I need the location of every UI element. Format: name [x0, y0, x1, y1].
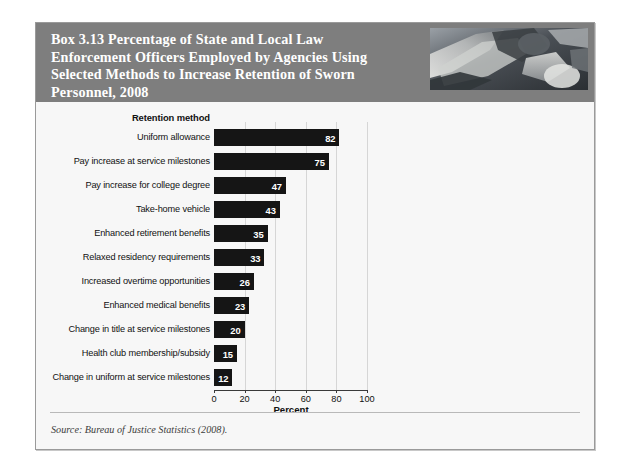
- bar-row: Enhanced medical benefits23: [36, 294, 594, 318]
- axis-tick: [306, 390, 307, 393]
- axis-tick: [245, 390, 246, 393]
- box-body: Retention method Uniform allowance82Pay …: [36, 102, 594, 449]
- bar-value-label: 47: [272, 180, 282, 191]
- page-title: Box 3.13 Percentage of State and Local L…: [51, 31, 396, 101]
- x-axis-label: Percent: [214, 404, 368, 415]
- footer-divider: [50, 412, 580, 413]
- bar-row: Increased overtime opportunities26: [36, 270, 594, 294]
- bar: 15: [214, 345, 237, 362]
- bar-value-label: 26: [240, 276, 250, 287]
- bar-category-label: Health club membership/subsidy: [36, 348, 210, 358]
- category-axis-title: Retention method: [36, 112, 210, 123]
- bar: 20: [214, 321, 245, 338]
- bar-value-label: 12: [218, 372, 228, 383]
- bar-value-label: 15: [223, 348, 233, 359]
- box-container: Box 3.13 Percentage of State and Local L…: [35, 22, 595, 450]
- bar-value-label: 33: [250, 252, 260, 263]
- axis-tick: [336, 390, 337, 393]
- police-officer-photo: [430, 28, 588, 90]
- axis-tick: [367, 390, 368, 393]
- bar: 26: [214, 273, 254, 290]
- bar: 82: [214, 129, 339, 146]
- bar: 75: [214, 153, 329, 170]
- axis-tick-label: 100: [359, 394, 374, 404]
- bar-rows: Uniform allowance82Pay increase at servi…: [36, 126, 594, 390]
- x-axis: 020406080100: [214, 390, 368, 391]
- box-header: Box 3.13 Percentage of State and Local L…: [36, 23, 594, 102]
- bar-value-label: 43: [266, 204, 276, 215]
- bar-category-label: Pay increase at service milestones: [36, 156, 210, 166]
- axis-tick-label: 40: [270, 394, 280, 404]
- bar-category-label: Enhanced retirement benefits: [36, 228, 210, 238]
- bar-value-label: 35: [253, 228, 263, 239]
- bar-row: Health club membership/subsidy15: [36, 342, 594, 366]
- bar-value-label: 23: [235, 300, 245, 311]
- bar-value-label: 75: [315, 156, 325, 167]
- bar: 47: [214, 177, 286, 194]
- bar-value-label: 82: [325, 132, 335, 143]
- axis-tick-label: 60: [301, 394, 311, 404]
- bar: 35: [214, 225, 268, 242]
- bar-category-label: Uniform allowance: [36, 132, 210, 142]
- bar-category-label: Change in title at service milestones: [36, 324, 210, 334]
- bar: 12: [214, 369, 232, 386]
- bar-row: Enhanced retirement benefits35: [36, 222, 594, 246]
- bar-category-label: Change in uniform at service milestones: [36, 372, 210, 382]
- bar: 33: [214, 249, 264, 266]
- bar-category-label: Enhanced medical benefits: [36, 300, 210, 310]
- bar-category-label: Take-home vehicle: [36, 204, 210, 214]
- axis-tick: [214, 390, 215, 393]
- bar-row: Pay increase at service milestones75: [36, 150, 594, 174]
- bar-row: Uniform allowance82: [36, 126, 594, 150]
- bar-category-label: Relaxed residency requirements: [36, 252, 210, 262]
- bar-row: Pay increase for college degree47: [36, 174, 594, 198]
- source-note: Source: Bureau of Justice Statistics (20…: [51, 424, 227, 435]
- bar-chart: Retention method Uniform allowance82Pay …: [36, 102, 594, 449]
- bar-row: Change in uniform at service milestones1…: [36, 366, 594, 390]
- bar: 43: [214, 201, 280, 218]
- bar-row: Relaxed residency requirements33: [36, 246, 594, 270]
- bar-row: Take-home vehicle43: [36, 198, 594, 222]
- bar-category-label: Increased overtime opportunities: [36, 276, 210, 286]
- axis-tick-label: 20: [239, 394, 249, 404]
- axis-tick-label: 80: [331, 394, 341, 404]
- bar-value-label: 20: [230, 324, 240, 335]
- bar-category-label: Pay increase for college degree: [36, 180, 210, 190]
- bar: 23: [214, 297, 249, 314]
- axis-tick: [275, 390, 276, 393]
- bar-row: Change in title at service milestones20: [36, 318, 594, 342]
- axis-tick-label: 0: [211, 394, 216, 404]
